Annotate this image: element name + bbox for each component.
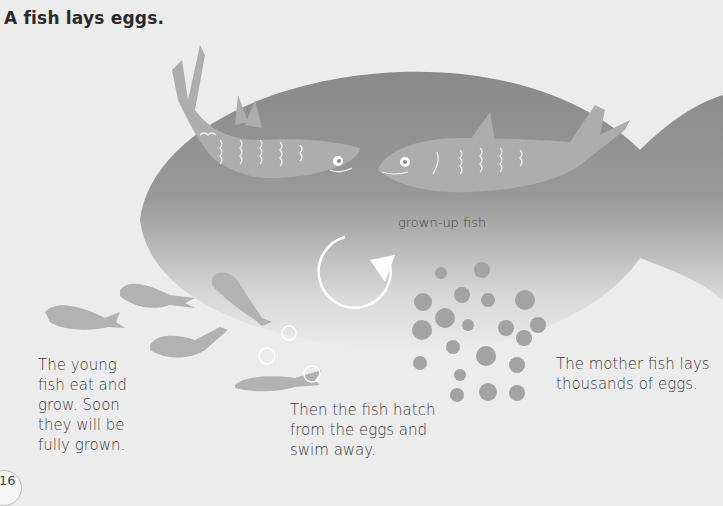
caption-line: fully grown. [38, 435, 148, 455]
page-number: 16 [0, 473, 16, 488]
caption-line: The young [38, 355, 148, 375]
caption-line: they will be [38, 415, 148, 435]
caption-line: from the eggs and [290, 420, 450, 440]
caption-grown-up-fish: grown-up fish [398, 213, 486, 233]
caption-line: The mother fish lays [556, 354, 723, 374]
caption-line: Then the fish hatch [290, 400, 450, 420]
caption-line: swim away. [290, 440, 450, 460]
caption-young-fish: The young fish eat and grow. Soon they w… [38, 355, 148, 455]
caption-line: thousands of eggs. [556, 374, 723, 394]
big-fish-silhouette [140, 72, 723, 352]
caption-mother-fish: The mother fish lays thousands of eggs. [556, 354, 723, 394]
caption-line: fish eat and [38, 375, 148, 395]
caption-line: grow. Soon [38, 395, 148, 415]
caption-hatch: Then the fish hatch from the eggs and sw… [290, 400, 450, 460]
